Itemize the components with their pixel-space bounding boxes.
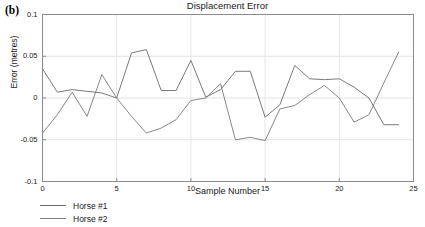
gridlines xyxy=(43,15,414,182)
series-line-2 xyxy=(43,52,399,141)
series-lines xyxy=(43,50,399,141)
legend-line-icon-horse-1 xyxy=(40,205,66,206)
legend-label-horse-2: Horse #2 xyxy=(73,214,108,224)
series-line-1 xyxy=(43,50,399,125)
x-tick-label: 20 xyxy=(329,184,349,193)
x-tick-label: 10 xyxy=(181,184,201,193)
y-tick-label: 0 xyxy=(12,93,38,102)
chart-legend: Horse #1 Horse #2 xyxy=(40,199,180,225)
x-tick-label: 0 xyxy=(33,184,53,193)
legend-line-icon-horse-2 xyxy=(40,218,66,219)
x-tick-label: 25 xyxy=(404,184,424,193)
legend-item-horse-1: Horse #1 xyxy=(40,199,180,212)
x-tick-label: 5 xyxy=(107,184,127,193)
y-tick-label: 0.1 xyxy=(12,10,38,19)
y-tick-label: -0.05 xyxy=(12,135,38,144)
legend-item-horse-2: Horse #2 xyxy=(40,212,180,225)
legend-label-horse-1: Horse #1 xyxy=(73,201,108,211)
figure-panel-b: (b) Displacement Error Error (metres) Sa… xyxy=(0,0,425,227)
x-tick-label: 15 xyxy=(255,184,275,193)
line-chart-plot xyxy=(0,0,425,227)
y-tick-label: 0.05 xyxy=(12,51,38,60)
